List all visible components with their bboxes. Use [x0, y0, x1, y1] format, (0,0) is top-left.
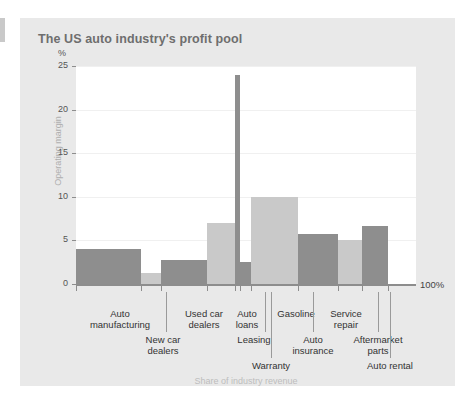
bar-warranty — [240, 262, 251, 284]
category-label-line: Auto — [282, 334, 344, 345]
y-axis-unit: % — [58, 48, 66, 58]
page-title: The US auto industry's profit pool — [38, 32, 242, 46]
y-axis-tick-label: 5 — [46, 234, 68, 244]
x-axis-tick — [141, 284, 142, 291]
category-label-auto-loans: Autoloans — [225, 308, 269, 330]
category-label-line: Auto — [80, 308, 160, 319]
label-leader-line — [265, 292, 266, 332]
category-label-gasoline: Gasoline — [270, 308, 322, 319]
x-axis-title: Share of industry revenue — [76, 376, 416, 386]
y-axis-tick-label: 15 — [46, 147, 68, 157]
category-label-auto-insurance: Autoinsurance — [282, 334, 344, 356]
bar-new-car-dealers — [141, 273, 161, 284]
label-leader-line — [313, 292, 314, 332]
category-label-line: Auto rental — [352, 360, 428, 371]
category-label-line: New car — [128, 334, 198, 345]
bar-auto-loans — [207, 223, 235, 284]
category-label-line: parts — [342, 345, 414, 356]
x-axis-end-label: 100% — [420, 279, 444, 290]
category-label-line: Gasoline — [270, 308, 322, 319]
y-axis-tick-label: 10 — [46, 191, 68, 201]
bar-gasoline — [251, 197, 298, 284]
label-leader-line — [378, 292, 379, 332]
x-axis-tick — [76, 284, 77, 291]
x-axis-tick — [161, 284, 162, 291]
x-axis-tick — [235, 284, 236, 291]
chart-card: The US auto industry's profit pool % Ope… — [20, 18, 455, 386]
plot-area — [76, 66, 416, 284]
bar-leasing — [235, 75, 240, 284]
bar-series — [76, 66, 416, 284]
category-label-line: manufacturing — [80, 319, 160, 330]
category-label-line: dealers — [128, 345, 198, 356]
category-label-line: Warranty — [238, 360, 304, 371]
bar-used-car-dealers — [161, 260, 207, 284]
category-label-leasing: Leasing — [228, 334, 280, 345]
label-leader-line — [271, 292, 272, 358]
category-label-aftermarket-parts: Aftermarketparts — [342, 334, 414, 356]
category-label-line: loans — [225, 319, 269, 330]
bar-service-repair — [298, 234, 338, 284]
y-axis-tick-label: 0 — [46, 278, 68, 288]
y-axis-tick-label: 25 — [46, 60, 68, 70]
x-axis-tick — [388, 284, 389, 291]
page-edge-marker — [0, 18, 5, 42]
bar-auto-rental — [362, 226, 388, 284]
category-label-service-repair: Servicerepair — [320, 308, 372, 330]
category-label-auto-manufacturing: Automanufacturing — [80, 308, 160, 330]
category-label-line: Auto — [225, 308, 269, 319]
x-axis-tick — [207, 284, 208, 291]
x-axis-tick — [240, 284, 241, 291]
category-label-line: Service — [320, 308, 372, 319]
x-axis-tick — [251, 284, 252, 291]
label-leader-line — [166, 292, 167, 332]
category-label-line: Aftermarket — [342, 334, 414, 345]
x-axis-tick — [298, 284, 299, 291]
category-label-warranty: Warranty — [238, 360, 304, 371]
category-label-auto-rental: Auto rental — [352, 360, 428, 371]
label-leader-line — [390, 292, 391, 358]
bar-aftermarket-parts — [338, 240, 362, 284]
category-label-line: repair — [320, 319, 372, 330]
chart-screenshot: The US auto industry's profit pool % Ope… — [0, 0, 475, 406]
x-axis-tick — [362, 284, 363, 291]
category-label-line: insurance — [282, 345, 344, 356]
bar-auto-manufacturing — [76, 249, 141, 284]
x-axis-tick — [338, 284, 339, 291]
category-label-new-car-dealers: New cardealers — [128, 334, 198, 356]
category-label-line: Leasing — [228, 334, 280, 345]
y-axis-tick-label: 20 — [46, 104, 68, 114]
x-axis-line — [76, 284, 416, 286]
